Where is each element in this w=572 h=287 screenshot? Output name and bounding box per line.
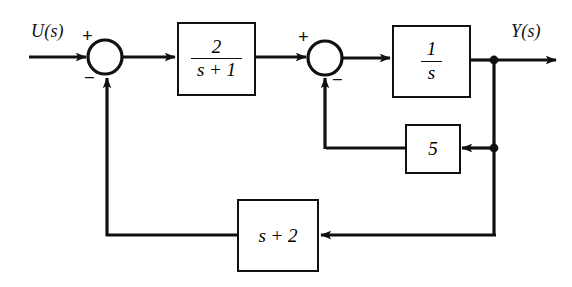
block-forward-1-denominator: s + 1 [191, 59, 242, 81]
block-integrator-denominator: s [421, 62, 443, 84]
block-forward-1-label: 2 s + 1 [191, 37, 242, 82]
summing-junction-1-minus-sign: − [84, 68, 95, 87]
input-signal-label: U(s) [31, 21, 64, 42]
inner-feedback-tap-dot [490, 144, 499, 153]
summing-junction-1-plus-sign: + [82, 26, 93, 45]
block-integrator: 1 s [392, 25, 471, 98]
block-integrator-numerator: 1 [421, 39, 443, 62]
output-tap-dot [490, 56, 499, 65]
summing-junction-2-minus-sign: − [332, 70, 343, 89]
summing-junction-2-plus-sign: + [298, 27, 309, 46]
block-diagram-canvas: 2 s + 1 1 s 5 s + 2 U(s) Y(s) + − + − [0, 0, 572, 287]
block-outer-feedback: s + 2 [237, 199, 319, 272]
block-forward-1: 2 s + 1 [177, 22, 256, 96]
block-inner-feedback-gain: 5 [405, 124, 461, 174]
block-integrator-label: 1 s [421, 39, 443, 84]
block-outer-feedback-label: s + 2 [258, 225, 297, 247]
block-forward-1-numerator: 2 [191, 37, 242, 60]
block-inner-feedback-gain-label: 5 [428, 138, 438, 160]
output-signal-label: Y(s) [511, 21, 541, 42]
